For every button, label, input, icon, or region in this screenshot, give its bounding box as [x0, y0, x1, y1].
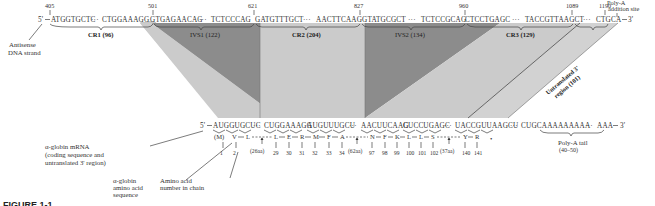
residue: F — [383, 133, 387, 140]
gap-label: (26aa) — [250, 148, 264, 155]
dna-segment: TCTCCCAG — [211, 16, 251, 24]
dna-segment: TCTCCGCAG — [421, 16, 466, 24]
region-label-ivs2: IVS2 (134) — [395, 31, 425, 39]
protein-label-line2: amino acid — [113, 184, 144, 191]
position-label: 1089 — [566, 2, 578, 9]
residue: N — [370, 133, 375, 140]
mrna-segment: AAA — [597, 122, 614, 130]
number-label-line2: number in chain — [160, 184, 205, 191]
residue: M — [313, 133, 319, 140]
residue: Y — [463, 133, 468, 140]
poly-a-tail-label-line1: Poly-A tail — [558, 139, 588, 146]
position-markers: 405 501 621 827 960 1089 1190 — [45, 2, 611, 15]
amino-acid-number: 97 — [369, 150, 375, 156]
mrna-ellipsis: ··· — [253, 122, 261, 130]
position-label: 405 — [45, 2, 54, 9]
amino-acid-number: 98 — [382, 150, 388, 156]
protein-label-line1: α-globin — [113, 177, 137, 184]
amino-acid-number: 29 — [273, 150, 279, 156]
region-label-cr1: CR1 (96) — [88, 31, 113, 39]
mrna-five-prime: 5' — [200, 122, 205, 130]
dna-ellipsis: ··· — [91, 16, 99, 24]
amino-acid-number: 100 — [406, 150, 415, 156]
amino-acid-number: 102 — [430, 150, 439, 156]
dna-segment: CTGGAAAGG — [102, 16, 149, 24]
protein-pointer — [186, 143, 232, 180]
mrna-ellipsis: ··· — [349, 122, 357, 130]
dna-segment: TACCGTTAAGCT — [525, 16, 585, 24]
amino-acid-number: 33 — [326, 150, 332, 156]
amino-acid-number: 2 — [233, 150, 236, 156]
region-label-cr2: CR2 (204) — [292, 31, 321, 39]
mrna-ellipsis: ··· — [510, 122, 518, 130]
region-label-cr3: CR3 (129) — [506, 31, 535, 39]
mrna-three-prime: 3' — [620, 122, 625, 130]
mrna-label-line1: α-globin mRNA — [45, 143, 90, 150]
antisense-label-line1: Antisense — [9, 41, 36, 48]
mrna-label-line2: (coding sequence and — [45, 151, 104, 159]
dna-segment: CTCCTGAGC — [465, 16, 510, 24]
gap-arrow-icon — [356, 138, 359, 141]
gap-label: (37aa) — [440, 148, 454, 155]
gap-label: (62aa) — [348, 148, 362, 155]
codon-brackets — [213, 130, 493, 133]
antisense-label-line2: DNA strand — [8, 49, 41, 56]
residue: L — [246, 133, 250, 140]
residue: F — [327, 133, 331, 140]
alpha-globin-gene-diagram: 5' ATGGTGCTC ··· CTGGAAAGG GTGAGAACAG ··… — [0, 0, 655, 206]
dna-ellipsis: ··· — [408, 16, 416, 24]
amino-acid-number: 101 — [418, 150, 427, 156]
mrna-pointer — [150, 131, 203, 146]
amino-acid-number: 141 — [474, 150, 483, 156]
dna-segment: AACTTCAAG — [316, 16, 362, 24]
mrna-segment: CUGGAAAGG — [264, 122, 312, 130]
mrna-ellipsis: ··· — [444, 122, 452, 130]
dna-ellipsis: ··· — [583, 16, 591, 24]
poly-a-tail-label-line2: (40–50) — [559, 147, 578, 154]
residue: S — [431, 133, 435, 140]
dna-segment: GTATGCGCT — [362, 16, 406, 24]
mrna-label-line3: untranslated 3' region) — [45, 159, 106, 167]
residue: R — [475, 133, 480, 140]
figure-caption: FIGURE 1-1 — [3, 200, 53, 206]
amino-acid-number: 99 — [394, 150, 400, 156]
mrna-segment: CUGCAAAAAAAAA — [521, 122, 591, 130]
residue: L — [274, 133, 278, 140]
amino-acid-number: 140 — [462, 150, 471, 156]
residue: (M) — [214, 133, 224, 141]
residue: L — [407, 133, 411, 140]
codon-bracket — [481, 130, 493, 133]
residue: K — [395, 133, 400, 140]
dna-segment: GTGAGAACAG — [150, 16, 203, 24]
residue: A — [340, 133, 345, 140]
residue: E — [287, 133, 291, 140]
position-label: 501 — [148, 2, 157, 9]
mrna-segment: AACUUCAAG — [361, 122, 409, 130]
mrna-ellipsis: ··· — [585, 122, 593, 130]
residue: R — [300, 133, 305, 140]
position-label: 960 — [459, 2, 468, 9]
position-label: 621 — [248, 2, 257, 9]
residue: L — [419, 133, 423, 140]
number-label-line1: Amino acid — [160, 177, 193, 184]
dna-five-prime: 5' — [38, 16, 43, 24]
gap-arrow-icon — [261, 138, 264, 141]
amino-acid-number: 34 — [339, 150, 345, 156]
amino-acid-number: 30 — [286, 150, 292, 156]
mrna-segment: CUCCUGAGC — [403, 122, 450, 130]
dna-segment: ATGGTGCTC — [51, 16, 96, 24]
dna-three-prime: 3' — [628, 16, 633, 24]
poly-a-tail-brace — [540, 130, 604, 136]
position-label: 827 — [354, 2, 363, 9]
gap-arrow-icon — [448, 138, 451, 141]
dna-ellipsis: ··· — [512, 16, 520, 24]
dna-segment: GATGTTTGCT — [255, 16, 304, 24]
protein-label-line3: sequence — [113, 191, 138, 198]
dna-segment: CTGCA — [596, 16, 622, 24]
region-label-ivs1: IVS1 (122) — [190, 31, 220, 39]
amino-acid-number: 31 — [299, 150, 305, 156]
amino-acid-chain: (M) V L L E R M F A N F K L L S Y R • — [214, 133, 492, 142]
dna-ellipsis: ··· — [199, 16, 207, 24]
stop-codon-dot: • — [490, 135, 492, 142]
amino-acid-number: 32 — [312, 150, 318, 156]
